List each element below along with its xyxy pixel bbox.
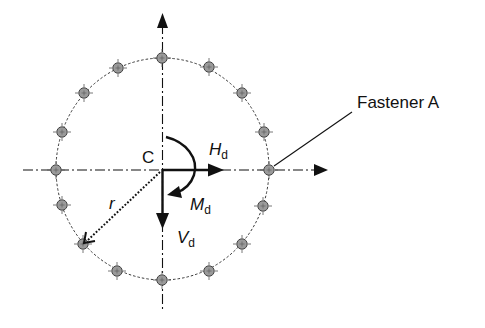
moment-symbol: M (190, 195, 205, 214)
centerline-axes (23, 13, 328, 310)
fastener (108, 262, 126, 280)
fastener (153, 271, 171, 289)
vertical-force-label: Vd (177, 228, 195, 250)
moment-arc (166, 137, 195, 193)
moment-subscript: d (204, 203, 211, 217)
fastener (153, 49, 171, 67)
fastener (200, 58, 218, 76)
horizontal-force-label: Hd (209, 140, 228, 162)
fastener-a (260, 161, 278, 179)
vertical-axis-arrow-icon (157, 13, 168, 28)
fastener (233, 84, 251, 102)
horizontal-force-symbol: H (209, 140, 222, 159)
moment-arrow-icon (167, 186, 182, 198)
fastener (200, 262, 218, 280)
vertical-force-arrow-icon (156, 213, 169, 229)
fastener-group-diagram: r C Hd Vd Md Fastener A (0, 0, 485, 328)
radius-line (88, 172, 160, 240)
horizontal-axis-arrow-icon (314, 164, 328, 176)
radius-label: r (109, 194, 116, 213)
fastener (53, 123, 71, 141)
horizontal-force-subscript: d (221, 148, 228, 162)
vertical-force-subscript: d (188, 236, 195, 250)
fastener (254, 197, 272, 215)
fastener (47, 161, 65, 179)
fastener (53, 196, 71, 214)
fastener-a-label: Fastener A (357, 93, 440, 112)
fastener-a-leader-line (274, 112, 352, 166)
center-label: C (142, 148, 154, 167)
fastener (233, 235, 251, 253)
fastener (75, 84, 93, 102)
fastener (255, 123, 273, 141)
moment-label: Md (190, 195, 211, 217)
horizontal-force-arrow-icon (208, 164, 224, 177)
fastener (109, 59, 127, 77)
